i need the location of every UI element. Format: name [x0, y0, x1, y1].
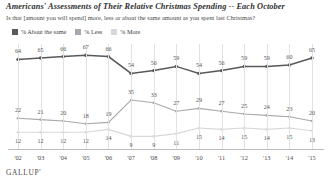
legend-item-2: % More	[111, 28, 140, 35]
x-tick-label: '08	[150, 154, 157, 161]
legend-label: % More	[120, 28, 140, 35]
chart-subtitle: Is that [amount you will spend] more, le…	[6, 14, 255, 21]
x-tick-label: '02	[14, 154, 21, 161]
data-label: 59	[264, 55, 270, 61]
data-label: 20	[60, 110, 66, 116]
data-label: 65	[38, 47, 44, 53]
gridline	[41, 44, 42, 149]
legend-swatch-icon	[12, 29, 18, 35]
x-tick-label: '13	[263, 154, 270, 161]
x-tick-label: '07	[127, 154, 134, 161]
data-label: 14	[218, 135, 224, 141]
gridline	[86, 44, 87, 149]
data-label: 20	[309, 110, 315, 116]
data-label: 66	[60, 46, 66, 52]
data-label: 27	[218, 100, 224, 106]
data-label: 15	[241, 134, 247, 140]
x-tick-label: '04	[60, 154, 67, 161]
data-label: 60	[286, 54, 292, 60]
data-label: 13	[309, 137, 315, 143]
data-label: 35	[128, 89, 134, 95]
gridline	[131, 44, 132, 149]
gridline	[63, 44, 64, 149]
data-label: 14	[264, 135, 270, 141]
data-label: 66	[105, 46, 111, 52]
data-label: 23	[286, 106, 292, 112]
data-label: 11	[173, 140, 179, 146]
gallup-chart: Americans' Assessments of Their Relative…	[0, 0, 332, 183]
data-label: 15	[196, 134, 202, 140]
data-label: 9	[130, 142, 133, 148]
data-label: 9	[152, 142, 155, 148]
data-label: 29	[196, 97, 202, 103]
x-tick-label: '11	[218, 154, 225, 161]
x-tick-label: '15	[308, 154, 315, 161]
data-label: 12	[60, 138, 66, 144]
data-label: 25	[241, 103, 247, 109]
data-label: 18	[83, 113, 89, 119]
data-label: 33	[151, 92, 157, 98]
x-tick-label: '12	[240, 154, 247, 161]
legend-item-1: % Less	[75, 28, 102, 35]
data-label: 21	[38, 109, 44, 115]
data-label: 27	[173, 100, 179, 106]
data-label: 65	[309, 47, 315, 53]
legend-swatch-icon	[75, 29, 81, 35]
data-label: 12	[83, 138, 89, 144]
gridline	[312, 44, 313, 149]
plot-area: 6465666766545659545659596065222120181935…	[8, 44, 324, 149]
x-tick-label: '10	[195, 154, 202, 161]
x-tick-label: '05	[82, 154, 89, 161]
gridline	[18, 44, 19, 149]
page-title: Americans' Assessments of Their Relative…	[6, 2, 285, 11]
data-label: 67	[83, 44, 89, 50]
data-label: 15	[286, 134, 292, 140]
legend-label: % Less	[84, 28, 102, 35]
gridline	[108, 44, 109, 149]
data-label: 14	[105, 135, 111, 141]
data-label: 56	[218, 60, 224, 66]
data-label: 59	[241, 55, 247, 61]
data-label: 12	[15, 138, 21, 144]
data-label: 54	[196, 62, 202, 68]
data-label: 12	[38, 138, 44, 144]
data-label: 24	[264, 104, 270, 110]
legend-item-0: % About the same	[12, 28, 66, 35]
data-label: 64	[15, 48, 21, 54]
gallup-logo: GALLUP'	[6, 168, 41, 177]
x-tick-label: '09	[173, 154, 180, 161]
x-axis-line	[8, 149, 324, 150]
series-lines	[8, 44, 324, 149]
x-tick-label: '14	[286, 154, 293, 161]
data-label: 54	[128, 62, 134, 68]
legend-swatch-icon	[111, 29, 117, 35]
data-label: 59	[173, 55, 179, 61]
x-axis-labels: '02'03'04'05'06'07'08'09'10'11'12'13'14'…	[8, 153, 324, 165]
chart-legend: % About the same% Less% More	[12, 28, 140, 35]
legend-label: % About the same	[21, 28, 66, 35]
x-tick-label: '03	[37, 154, 44, 161]
data-label: 22	[15, 107, 21, 113]
data-label: 19	[105, 111, 111, 117]
x-tick-label: '06	[105, 154, 112, 161]
data-label: 56	[151, 60, 157, 66]
